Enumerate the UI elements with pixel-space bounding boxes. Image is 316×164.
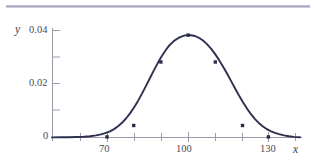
x-axis-title: x (293, 144, 298, 156)
chart-figure: 0.04 0.02 0 70 100 130 y x (0, 0, 316, 164)
normal-distribution-curve (52, 35, 300, 137)
x-tick-label-130: 130 (260, 144, 276, 155)
y-axis-ticks (53, 31, 60, 111)
x-tick-label-100: 100 (176, 144, 192, 155)
y-axis-title: y (15, 24, 20, 36)
y-tick-label-0: 0 (43, 131, 48, 142)
x-tick-label-70: 70 (99, 144, 110, 155)
data-point-markers (105, 33, 270, 138)
y-tick-label-004: 0.04 (29, 25, 47, 36)
y-tick-label-002: 0.02 (29, 78, 47, 89)
